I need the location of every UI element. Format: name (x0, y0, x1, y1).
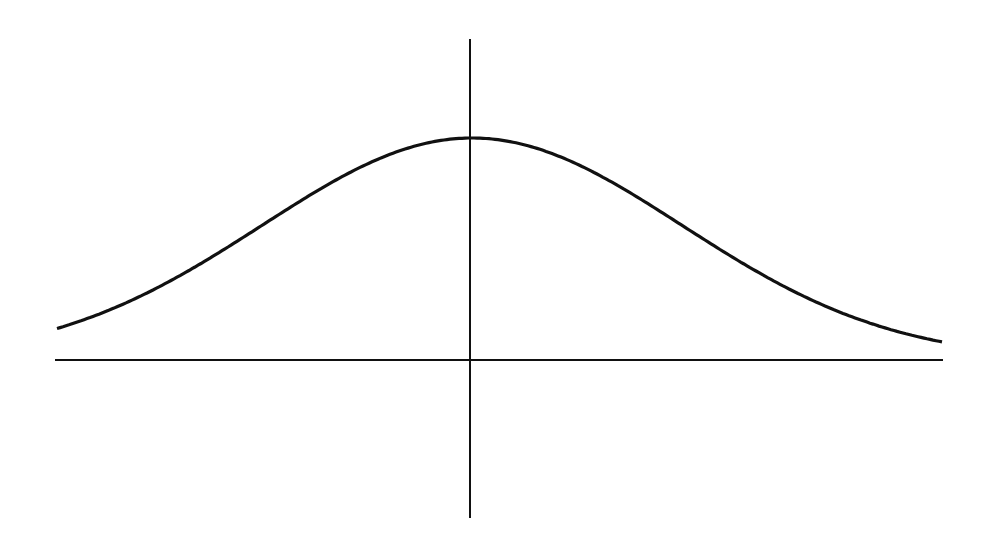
normal-curve (57, 138, 942, 342)
bell-curve-diagram (0, 0, 1000, 548)
